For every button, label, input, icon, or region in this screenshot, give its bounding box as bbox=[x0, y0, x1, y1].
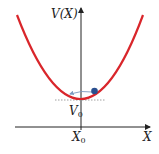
y-axis-label: V(X) bbox=[51, 7, 78, 21]
x0-label: X0 bbox=[71, 130, 86, 145]
x-axis-label: X bbox=[142, 130, 152, 144]
potential-well-diagram: V(X) V0 X0 X bbox=[0, 0, 159, 154]
potential-curve bbox=[17, 15, 143, 99]
ball-icon bbox=[91, 88, 98, 95]
